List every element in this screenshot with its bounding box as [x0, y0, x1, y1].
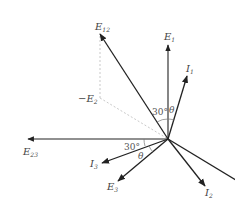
angle-label-upper-theta: θ — [169, 105, 175, 115]
arc-upper-30 — [157, 119, 168, 122]
arc-upper-theta — [168, 119, 174, 120]
arc-lower-theta — [149, 146, 153, 152]
label-i3: I3 — [89, 158, 98, 170]
phasor-diagram: E12 E1 I1 −E2 E23 I3 E3 I2 30° θ 30° θ — [0, 0, 235, 206]
label-e12: E12 — [94, 21, 110, 33]
label-e1: E1 — [163, 31, 175, 43]
angle-label-lower-theta: θ — [138, 151, 144, 161]
label-e3: E3 — [106, 181, 118, 193]
arc-lower-30 — [144, 139, 145, 146]
vector-e12 — [100, 34, 168, 139]
label-e23: E23 — [22, 146, 38, 158]
dashed-minus-e2-vector — [100, 98, 168, 139]
angle-label-upper-30: 30° — [152, 107, 168, 117]
vector-e2 — [168, 139, 235, 180]
vector-i2 — [168, 139, 205, 186]
label-i2: I2 — [204, 187, 213, 199]
label-i1: I1 — [185, 63, 194, 75]
label-minus-e2: −E2 — [78, 93, 98, 105]
